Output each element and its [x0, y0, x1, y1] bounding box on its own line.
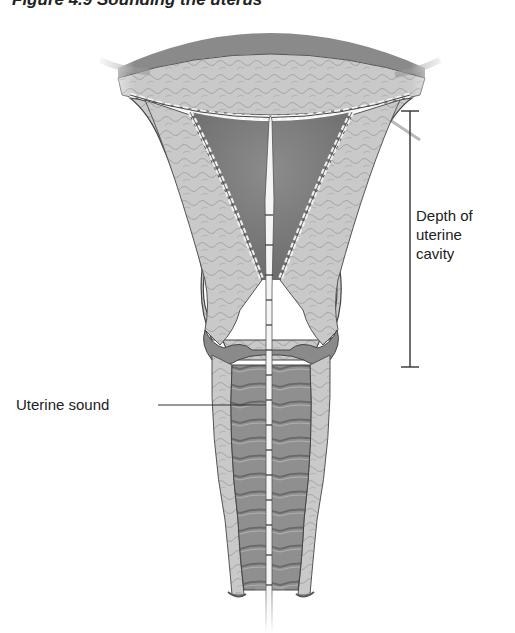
fundus: [118, 33, 425, 118]
depth-label-line-1: Depth of: [416, 206, 506, 225]
uterus-illustration: [0, 0, 515, 633]
depth-of-cavity-label: Depth of uterine cavity: [416, 206, 506, 263]
depth-label-line-3: cavity: [416, 244, 506, 263]
depth-label-line-2: uterine: [416, 225, 506, 244]
uterine-sound-label: Uterine sound: [16, 395, 109, 414]
